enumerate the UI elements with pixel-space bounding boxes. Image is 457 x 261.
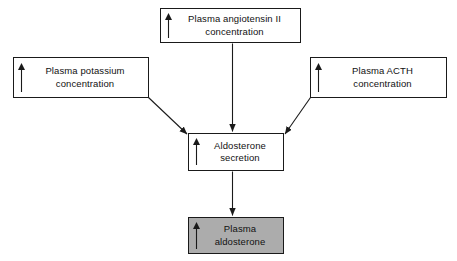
node-plasma-acth: Plasma ACTH concentration (310, 57, 447, 98)
up-arrow-glyph (314, 63, 323, 93)
up-arrow-glyph (192, 222, 201, 250)
increase-up-arrow-icon (311, 63, 325, 93)
diagram-canvas: Plasma angiotensin II concentration Plas… (0, 0, 457, 261)
node-aldosterone-secretion: Aldosterone secretion (188, 133, 284, 171)
edge-potassium-to-secretion (149, 98, 188, 135)
node-label: Aldosterone secretion (203, 140, 283, 165)
increase-up-arrow-icon (189, 222, 203, 250)
node-plasma-angiotensin-ii: Plasma angiotensin II concentration (160, 8, 301, 43)
up-arrow-glyph (164, 13, 173, 39)
increase-up-arrow-icon (14, 63, 28, 93)
node-label: Plasma potassium concentration (28, 65, 148, 90)
node-label: Plasma ACTH concentration (325, 65, 446, 90)
increase-up-arrow-icon (161, 13, 175, 39)
node-plasma-aldosterone: Plasma aldosterone (188, 217, 284, 254)
edge-acth-to-secretion (285, 98, 311, 135)
increase-up-arrow-icon (189, 138, 203, 166)
up-arrow-glyph (192, 138, 201, 166)
node-label: Plasma aldosterone (203, 223, 283, 248)
node-label: Plasma angiotensin II concentration (175, 13, 300, 38)
up-arrow-glyph (17, 63, 26, 93)
node-plasma-potassium: Plasma potassium concentration (13, 57, 149, 98)
